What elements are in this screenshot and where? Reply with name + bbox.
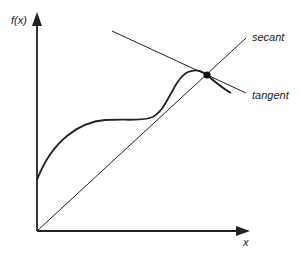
tangent-label: tangent: [252, 89, 290, 101]
x-axis-arrow-icon: [236, 226, 250, 236]
secant-tangent-diagram: f(x) x secant tangent: [0, 0, 300, 258]
y-axis-label: f(x): [11, 14, 27, 26]
secant-label: secant: [252, 31, 285, 43]
function-curve: [37, 70, 231, 180]
tangent-line: [112, 31, 246, 93]
point-of-tangency: [203, 71, 210, 78]
y-axis-arrow-icon: [32, 12, 42, 26]
x-axis-label: x: [242, 236, 249, 248]
